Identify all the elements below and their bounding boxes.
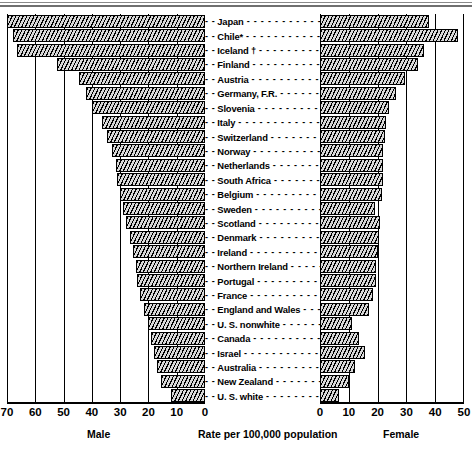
male-gridline-50: [64, 14, 65, 403]
leader-dash-right: - - - - - - - - - - - - - - - - - - - - …: [255, 104, 320, 113]
bar-female: [320, 159, 383, 172]
bar-male: [140, 288, 205, 301]
country-label-row: - -Northern Ireland- - - - - - - - - - -…: [205, 259, 320, 275]
bar-male: [17, 44, 205, 57]
country-label-row: - -U. S. white- - - - - - - - - - - - - …: [205, 389, 320, 405]
bar-female: [320, 29, 458, 42]
bar-male: [107, 130, 205, 143]
leader-dash-right: - - - - - - - - - - - - - - - - - - - - …: [243, 32, 320, 41]
bar-female: [320, 389, 339, 402]
leader-dash-left: - -: [205, 17, 217, 26]
bar-female: [320, 15, 429, 28]
bar-female: [320, 260, 376, 273]
country-label-row: - -France- - - - - - - - - - - - - - - -…: [205, 288, 320, 304]
country-name: Denmark: [217, 232, 256, 243]
leader-dash-right: - - - - - - - - - - - - - - - - - - - - …: [300, 305, 320, 314]
leader-dash-right: - - - - - - - - - - - - - - - - - - - - …: [253, 190, 320, 199]
bar-male: [151, 332, 205, 345]
bar-female: [320, 346, 365, 359]
bar-female: [320, 44, 424, 57]
bar-male: [92, 101, 205, 114]
country-name: Germany, F.R.: [217, 88, 277, 99]
leader-dash-left: - -: [205, 377, 217, 386]
leader-dash-right: - - - - - - - - - - - - - - - - - - - - …: [256, 363, 320, 372]
bar-male: [13, 29, 205, 42]
leader-dash-right: - - - - - - - - - - - - - - - - - - - - …: [252, 205, 320, 214]
country-name: France: [217, 290, 247, 301]
bar-male: [171, 389, 205, 402]
country-label-row: - -Chile*- - - - - - - - - - - - - - - -…: [205, 28, 320, 44]
female-tick-labels: 01020304050: [300, 406, 472, 420]
leader-dash-right: - - - - - - - - - - - - - - - - - - - - …: [235, 118, 320, 127]
leader-dash-right: - - - - - - - - - - - - - - - - - - - - …: [271, 176, 320, 185]
country-name: Italy: [217, 117, 235, 128]
bar-female: [320, 216, 380, 229]
female-axis-caption: Female: [383, 428, 419, 440]
country-label-row: - -Belgium- - - - - - - - - - - - - - - …: [205, 187, 320, 203]
male-panel: [7, 14, 205, 403]
bar-female: [320, 303, 369, 316]
leader-dash-left: - -: [205, 349, 217, 358]
country-label-row: - -Iceland †- - - - - - - - - - - - - - …: [205, 43, 320, 59]
bar-male: [116, 159, 205, 172]
bar-female: [320, 202, 375, 215]
country-label-row: - -Norway- - - - - - - - - - - - - - - -…: [205, 144, 320, 160]
bar-female: [320, 101, 389, 114]
leader-dash-right: - - - - - - - - - - - - - - - - - - - - …: [250, 60, 320, 69]
leader-dash-right: - - - - - - - - - - - - - - - - - - - - …: [268, 133, 320, 142]
leader-dash-left: - -: [205, 291, 217, 300]
country-name: Belgium: [217, 189, 253, 200]
rate-axis-caption: Rate per 100,000 population: [198, 428, 337, 440]
country-name: Sweden: [217, 204, 252, 215]
country-name: South Africa: [217, 175, 271, 186]
bar-male: [144, 303, 205, 316]
country-name: Chile*: [217, 31, 243, 42]
country-name: U. S. nonwhite: [217, 319, 279, 330]
leader-dash-left: - -: [205, 392, 217, 401]
country-name: Australia: [217, 362, 256, 373]
country-label-row: - -Austria- - - - - - - - - - - - - - - …: [205, 72, 320, 88]
country-label-row: - -Denmark- - - - - - - - - - - - - - - …: [205, 230, 320, 246]
leader-dash-left: - -: [205, 233, 217, 242]
country-label-column: - -Japan- - - - - - - - - - - - - - - - …: [205, 14, 320, 403]
country-name: England and Wales: [217, 304, 300, 315]
country-name: New Zealand: [217, 376, 273, 387]
leader-dash-left: - -: [205, 147, 217, 156]
leader-dash-left: - -: [205, 161, 217, 170]
country-label-row: - -Israel- - - - - - - - - - - - - - - -…: [205, 345, 320, 361]
bar-male: [123, 202, 205, 215]
bar-female: [320, 173, 383, 186]
country-name: U. S. white: [217, 391, 263, 402]
male-tick-labels: 706050403020100: [0, 406, 240, 420]
top-rule-thick: [0, 5, 472, 7]
bar-male: [136, 260, 205, 273]
female-tick-40: 40: [429, 406, 442, 418]
male-tick-60: 60: [29, 406, 42, 418]
country-name: Canada: [217, 333, 250, 344]
bar-female: [320, 58, 418, 71]
leader-dash-right: - - - - - - - - - - - - - - - - - - - - …: [256, 219, 320, 228]
male-tick-0: 0: [202, 406, 208, 418]
leader-dash-right: - - - - - - - - - - - - - - - - - - - - …: [288, 262, 320, 271]
bar-male: [102, 116, 205, 129]
leader-dash-left: - -: [205, 176, 217, 185]
country-label-row: - -South Africa- - - - - - - - - - - - -…: [205, 172, 320, 188]
bar-male: [86, 87, 205, 100]
female-tick-10: 10: [342, 406, 355, 418]
leader-dash-left: - -: [205, 133, 217, 142]
female-panel: [320, 14, 464, 403]
bar-male: [157, 360, 205, 373]
country-label-row: - -England and Wales- - - - - - - - - - …: [205, 302, 320, 318]
top-rule-thin: [0, 2, 472, 3]
country-label-row: - -Ireland- - - - - - - - - - - - - - - …: [205, 245, 320, 261]
bar-female: [320, 274, 376, 287]
country-label-row: - -Slovenia- - - - - - - - - - - - - - -…: [205, 100, 320, 116]
male-tick-20: 20: [142, 406, 155, 418]
country-label-row: - -Portugal- - - - - - - - - - - - - - -…: [205, 273, 320, 289]
country-name: Scotland: [217, 218, 255, 229]
country-label-row: - -U. S. nonwhite- - - - - - - - - - - -…: [205, 317, 320, 333]
female-gridline-50: [463, 14, 464, 403]
bar-male: [79, 72, 205, 85]
leader-dash-left: - -: [205, 89, 217, 98]
leader-dash-right: - - - - - - - - - - - - - - - - - - - - …: [247, 248, 320, 257]
